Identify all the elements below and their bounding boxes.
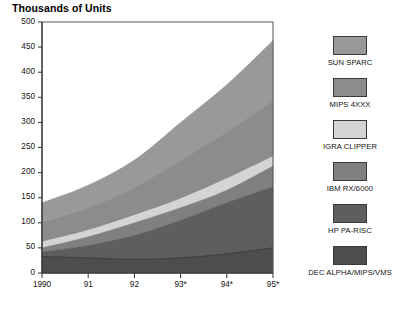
x-axis-tick-label: 1990 [17,280,67,289]
y-axis-tick-label: 0 [0,268,35,277]
x-axis-tick-label: 95* [248,280,298,289]
legend-label-hp-pa-risc: HP PA-RISC [300,226,400,235]
y-axis-tick-label: 400 [0,67,35,76]
legend-item-igra-clipper[interactable]: IGRA CLIPPER [300,120,400,151]
x-axis-tick-label: 92 [109,280,159,289]
page-title: Thousands of Units [12,2,112,14]
legend-label-dec-alpha: DEC ALPHA/MIPS/VMS [300,268,400,277]
y-axis-tick-label: 500 [0,17,35,26]
y-axis-tick-label: 350 [0,92,35,101]
y-axis-tick-label: 450 [0,42,35,51]
legend-swatch-igra-clipper [333,120,367,139]
chart-legend: SUN SPARC MIPS 4XXX IGRA CLIPPER IBM RX/… [300,36,400,286]
y-axis-tick-label: 250 [0,142,35,151]
x-axis-tick-label: 94* [202,280,252,289]
y-axis-tick-label: 100 [0,217,35,226]
legend-label-mips-4xxx: MIPS 4XXX [300,100,400,109]
legend-item-mips-4xxx[interactable]: MIPS 4XXX [300,78,400,109]
legend-swatch-dec-alpha [333,246,367,265]
x-axis-tick-label: 93* [156,280,206,289]
legend-item-sun-sparc[interactable]: SUN SPARC [300,36,400,67]
legend-label-sun-sparc: SUN SPARC [300,58,400,67]
x-axis-tick-label: 91 [63,280,113,289]
legend-swatch-hp-pa-risc [333,204,367,223]
y-axis-tick-label: 300 [0,117,35,126]
y-axis-tick-label: 150 [0,192,35,201]
legend-item-hp-pa-risc[interactable]: HP PA-RISC [300,204,400,235]
legend-swatch-mips-4xxx [333,78,367,97]
legend-swatch-ibm-rx-6000 [333,162,367,181]
legend-item-dec-alpha[interactable]: DEC ALPHA/MIPS/VMS [300,246,400,277]
y-axis-tick-label: 200 [0,167,35,176]
legend-label-igra-clipper: IGRA CLIPPER [300,142,400,151]
legend-item-ibm-rx-6000[interactable]: IBM RX/6000 [300,162,400,193]
legend-swatch-sun-sparc [333,36,367,55]
legend-label-ibm-rx-6000: IBM RX/6000 [300,184,400,193]
plot-area: 0501001502002503003504004505001990919293… [0,18,292,293]
area-chart-svg [0,18,292,293]
chart-figure: Thousands of Units 050100150200250300350… [0,0,402,311]
y-axis-tick-label: 50 [0,242,35,251]
